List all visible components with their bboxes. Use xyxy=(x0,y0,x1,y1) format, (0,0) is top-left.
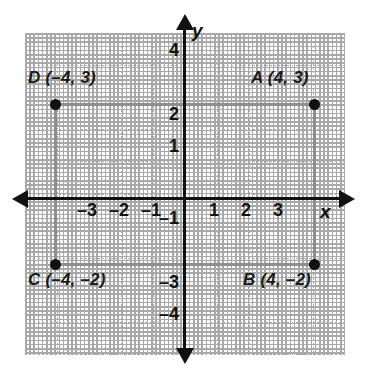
grid-line-vertical xyxy=(249,33,250,355)
point-A-label: A (4, 3) xyxy=(251,68,309,88)
x-axis-label: x xyxy=(320,201,331,223)
grid-line-vertical xyxy=(121,33,122,355)
y-tick-label-4: 4 xyxy=(155,40,179,61)
y-axis-arrow-up xyxy=(176,14,194,30)
x-tick-label-3: 3 xyxy=(268,200,288,221)
x-tick-label--3: –3 xyxy=(73,200,101,221)
y-tick-label-2: 2 xyxy=(155,104,179,125)
point-D-label: D (–4, 3) xyxy=(28,68,96,88)
grid-line-vertical xyxy=(217,33,218,355)
y-tick-label--1: –1 xyxy=(147,208,179,229)
y-tick-label-1: 1 xyxy=(155,136,179,157)
y-axis-arrow-down xyxy=(176,348,194,364)
rectangle-edge-right xyxy=(313,103,316,266)
point-C-label: C (–4, –2) xyxy=(28,270,106,290)
y-tick-label--4: –4 xyxy=(147,304,179,325)
x-tick-label--2: –2 xyxy=(105,200,133,221)
y-axis-line xyxy=(183,30,186,350)
y-axis-label: y xyxy=(192,20,203,42)
coordinate-plane-figure: D (–4, 3) A (4, 3) C (–4, –2) B (4, –2) … xyxy=(0,0,368,373)
point-B-label: B (4, –2) xyxy=(243,270,311,290)
x-tick-label-1: 1 xyxy=(204,200,224,221)
point-A-marker xyxy=(309,99,320,110)
point-C-marker xyxy=(50,259,61,270)
point-B-marker xyxy=(309,259,320,270)
x-tick-label-2: 2 xyxy=(236,200,256,221)
x-axis-arrow-right xyxy=(339,190,355,208)
rectangle-edge-left xyxy=(54,103,57,266)
x-axis-arrow-left xyxy=(12,190,28,208)
point-D-marker xyxy=(50,99,61,110)
y-tick-label--3: –3 xyxy=(147,272,179,293)
